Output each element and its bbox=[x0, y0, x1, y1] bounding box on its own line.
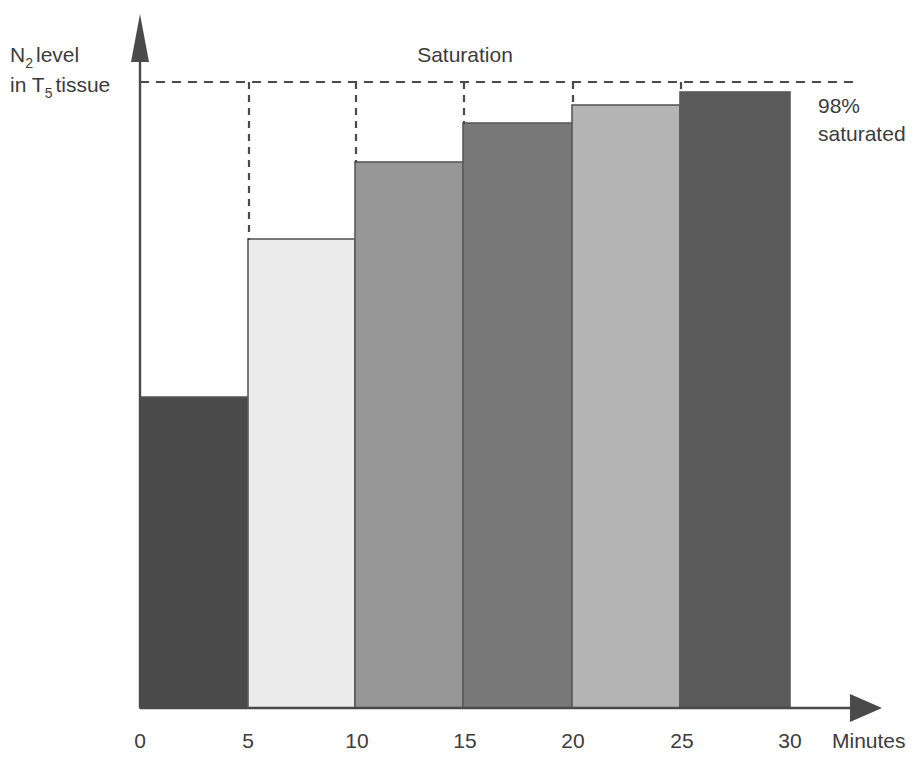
bar-20-25 bbox=[572, 105, 680, 708]
y-axis-label: N2level in T5tissue bbox=[10, 43, 110, 101]
x-tick-10: 10 bbox=[345, 729, 368, 752]
y-axis-label-sub-2: 2 bbox=[25, 55, 33, 71]
bar-25-30 bbox=[680, 92, 790, 708]
x-axis-title-minutes: Minutes bbox=[832, 729, 906, 752]
x-tick-0: 0 bbox=[134, 729, 146, 752]
bar-10-15 bbox=[355, 162, 463, 708]
bar-5-10 bbox=[248, 239, 355, 708]
y-axis-label-n: N bbox=[10, 43, 25, 66]
svg-text:N2level: N2level bbox=[10, 43, 79, 71]
chart-container: N2level in T5tissue Saturation 98% satur… bbox=[0, 0, 921, 761]
x-tick-15: 15 bbox=[453, 729, 476, 752]
annotation-saturated: saturated bbox=[818, 122, 906, 145]
x-axis-arrow-icon bbox=[850, 694, 882, 722]
bar-0-5 bbox=[140, 397, 248, 708]
y-axis-label-sub-5: 5 bbox=[45, 85, 53, 101]
n2-saturation-bar-chart: N2level in T5tissue Saturation 98% satur… bbox=[0, 0, 921, 761]
right-saturated-annotation: 98% saturated bbox=[818, 94, 906, 145]
x-tick-30: 30 bbox=[778, 729, 801, 752]
bar-15-20 bbox=[463, 123, 572, 708]
y-axis-label-tissue: tissue bbox=[55, 73, 110, 96]
x-tick-25: 25 bbox=[670, 729, 693, 752]
y-axis-arrow-icon bbox=[131, 14, 149, 62]
annotation-98-percent: 98% bbox=[818, 94, 860, 117]
svg-text:in T5tissue: in T5tissue bbox=[10, 73, 110, 101]
x-tick-20: 20 bbox=[561, 729, 584, 752]
y-axis-label-in-t: in T bbox=[10, 73, 45, 96]
saturation-annotation-label: Saturation bbox=[417, 43, 513, 66]
x-axis-tick-labels: 0 5 10 15 20 25 30 Minutes bbox=[134, 729, 905, 752]
bars-group bbox=[140, 92, 790, 708]
y-axis-label-level: level bbox=[36, 43, 79, 66]
x-tick-5: 5 bbox=[242, 729, 254, 752]
